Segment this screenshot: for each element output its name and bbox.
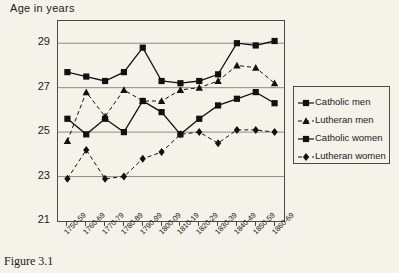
- figure-container: Age in years 2123252729 1750-591760-6917…: [0, 0, 399, 273]
- triangle-marker-icon: [298, 113, 314, 125]
- legend-item: Catholic men: [298, 92, 385, 110]
- y-tick-label: 27: [24, 80, 50, 92]
- y-tick-label: 21: [24, 213, 50, 225]
- y-axis-title: Age in years: [10, 2, 75, 14]
- legend-label: Lutheran women: [315, 150, 386, 161]
- diamond-marker-icon: [298, 149, 314, 161]
- square-marker-icon: [298, 131, 314, 143]
- chart-svg: [58, 21, 284, 221]
- y-tick-label: 25: [24, 124, 50, 136]
- legend-item: Lutheran men: [298, 110, 385, 128]
- legend-item: Lutheran women: [298, 146, 385, 164]
- legend-label: Catholic men: [315, 96, 370, 107]
- square-marker-icon: [298, 95, 314, 107]
- legend-item: Catholic women: [298, 128, 385, 146]
- plot-area: [57, 20, 285, 222]
- y-tick-label: 23: [24, 169, 50, 181]
- legend-label: Lutheran men: [315, 114, 374, 125]
- legend-label: Catholic women: [315, 132, 383, 143]
- figure-caption: Figure 3.1: [4, 254, 53, 269]
- chart-legend: Catholic menLutheran menCatholic womenLu…: [293, 86, 390, 164]
- y-tick-label: 29: [24, 35, 50, 47]
